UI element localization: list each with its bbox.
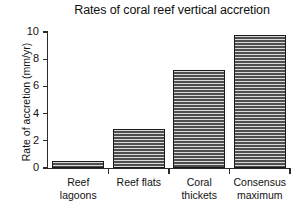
x-category-label-line: Reef: [48, 176, 109, 189]
bar: [234, 35, 286, 168]
x-category-label: Consensusmaximum: [230, 176, 291, 201]
chart-figure: Rates of coral reef vertical accretion R…: [0, 0, 303, 209]
y-tick-label: 6: [11, 80, 39, 91]
y-tick-label: 0: [11, 162, 39, 173]
x-tick-mark: [289, 169, 290, 174]
x-tick-mark: [108, 169, 109, 174]
x-category-label: Coralthickets: [169, 176, 230, 201]
x-category-label-line: Consensus: [230, 176, 291, 189]
y-axis-label-container: Rate of accretion (mm/yr): [16, 27, 32, 177]
x-category-label-line: thickets: [169, 189, 230, 202]
x-category-label-line: Reef flats: [109, 176, 170, 189]
plot-area: [48, 32, 290, 168]
bar: [173, 70, 225, 168]
x-tick-mark: [168, 169, 169, 174]
y-tick-label: 4: [11, 108, 39, 119]
y-tick-label: 10: [11, 26, 39, 37]
x-category-label-line: Coral: [169, 176, 230, 189]
x-category-label-line: maximum: [230, 189, 291, 202]
bar: [113, 129, 165, 168]
x-category-label: Reef flats: [109, 176, 170, 189]
y-tick-label: 8: [11, 53, 39, 64]
bar: [52, 161, 104, 168]
chart-title: Rates of coral reef vertical accretion: [48, 3, 296, 17]
x-category-label-line: lagoons: [48, 189, 109, 202]
y-tick-label: 2: [11, 135, 39, 146]
x-tick-mark: [229, 169, 230, 174]
x-category-label: Reeflagoons: [48, 176, 109, 201]
